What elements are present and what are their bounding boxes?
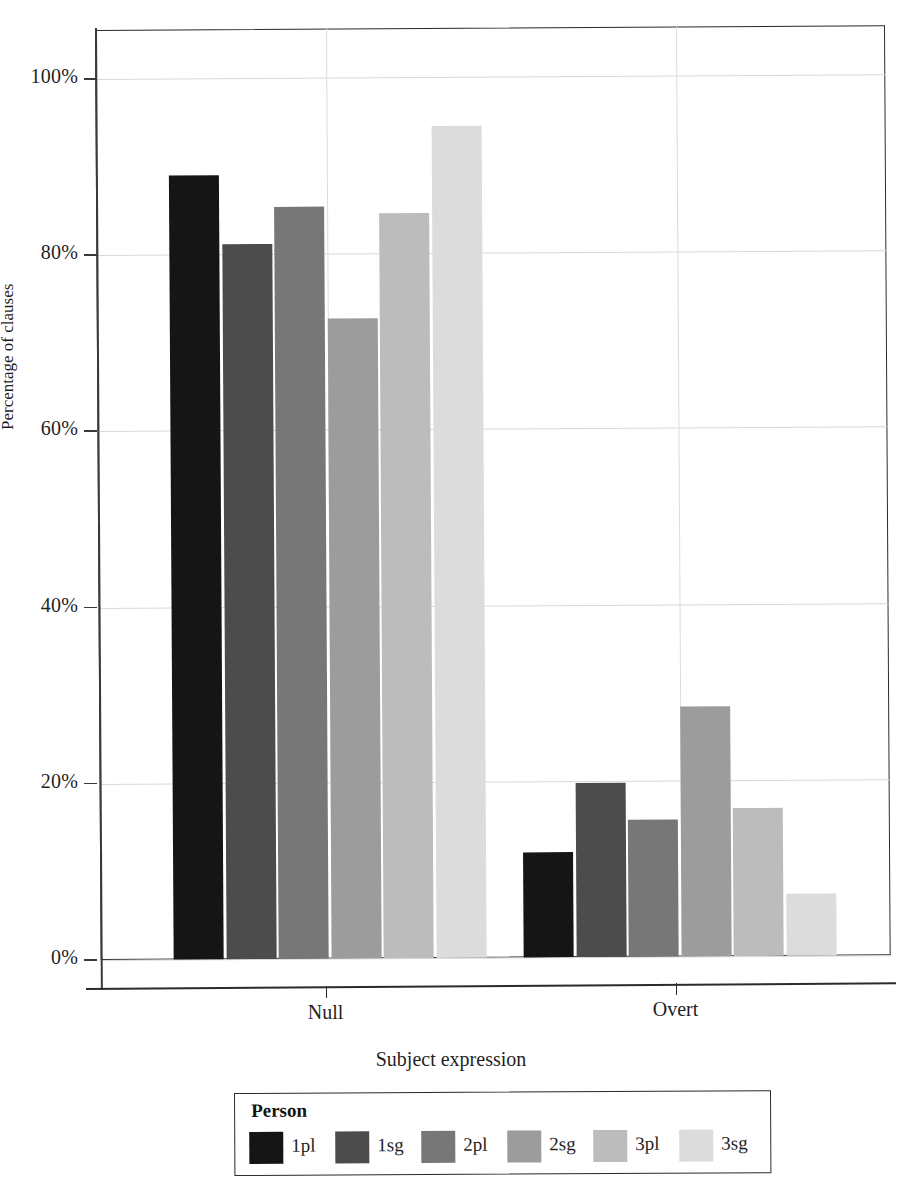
legend-label: 2pl <box>463 1134 487 1156</box>
y-axis-tick-label: 40% <box>0 594 78 617</box>
bar <box>379 213 434 959</box>
x-axis-tick-label: Null <box>256 1001 396 1024</box>
y-axis-tick-mark <box>84 430 97 432</box>
x-axis-tick-mark <box>676 983 678 995</box>
y-axis-tick-mark <box>84 78 97 80</box>
legend-entry: 2sg <box>507 1128 593 1166</box>
legend-label: 3pl <box>635 1133 659 1155</box>
legend-label: 1pl <box>291 1135 315 1157</box>
legend-entry: 3sg <box>679 1127 765 1165</box>
legend-label: 2sg <box>549 1133 576 1155</box>
y-axis-tick-label: 100% <box>0 65 78 88</box>
bar <box>274 206 329 959</box>
bar <box>786 894 836 956</box>
legend-entry: 1sg <box>335 1129 421 1167</box>
y-axis-tick-mark <box>84 254 97 256</box>
legend-swatch <box>679 1129 713 1161</box>
legend-title: Person <box>251 1100 307 1122</box>
y-axis-tick-label: 80% <box>0 241 78 264</box>
bar <box>222 244 276 960</box>
legend-entry: 2pl <box>421 1129 507 1167</box>
y-axis-title: Percentage of clauses <box>0 284 18 430</box>
legend: Person 1pl1sg2pl2sg3pl3sg <box>234 1090 771 1176</box>
bar-chart-figure: 100%80%60%40%20%0% Percentage of clauses… <box>0 0 902 1194</box>
legend-items: 1pl1sg2pl2sg3pl3sg <box>249 1127 769 1170</box>
legend-swatch <box>507 1130 541 1162</box>
x-axis-title: Subject expression <box>0 1048 902 1071</box>
legend-entry: 1pl <box>249 1129 335 1167</box>
bar <box>327 318 381 959</box>
bar <box>169 175 224 959</box>
y-axis-tick-label: 0% <box>0 946 78 969</box>
legend-label: 3sg <box>721 1132 748 1154</box>
legend-swatch <box>421 1131 455 1163</box>
y-axis-tick-mark <box>84 959 97 961</box>
bar <box>523 852 574 957</box>
bar <box>628 820 679 957</box>
plot-area <box>95 25 891 960</box>
bar <box>733 808 784 956</box>
legend-swatch <box>249 1132 283 1164</box>
y-axis-tick-label: 20% <box>0 770 78 793</box>
bar <box>680 706 732 957</box>
bar <box>575 783 626 957</box>
y-axis-tick-mark <box>84 607 97 609</box>
x-axis-tick-mark <box>326 986 328 998</box>
legend-label: 1sg <box>377 1134 404 1156</box>
x-axis-line <box>86 982 896 989</box>
gridline-horizontal <box>95 74 885 80</box>
legend-swatch <box>593 1130 627 1162</box>
legend-swatch <box>335 1131 369 1163</box>
x-axis-tick-label: Overt <box>606 998 746 1021</box>
legend-entry: 3pl <box>593 1128 679 1166</box>
y-axis-tick-mark <box>84 783 97 785</box>
bar <box>431 126 486 958</box>
